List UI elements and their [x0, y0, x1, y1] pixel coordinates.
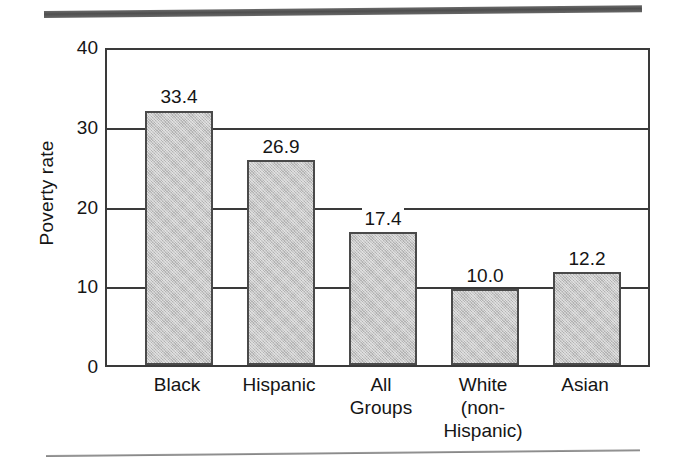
x-label-black: Black	[127, 373, 227, 396]
bar-value-label: 12.2	[566, 248, 609, 269]
x-label-white-non-hispanic: White (non- Hispanic)	[433, 373, 533, 442]
x-label-line: Hispanic	[229, 373, 329, 396]
bar-black	[145, 111, 213, 365]
x-label-line: White	[433, 373, 533, 396]
y-tick-label: 0	[46, 357, 98, 377]
bar-value-label: 17.4	[362, 208, 405, 229]
x-label-hispanic: Hispanic	[229, 373, 329, 396]
bar-value-asian: 12.2	[543, 249, 631, 269]
bar-value-all-groups: 17.4	[339, 209, 427, 229]
poverty-rate-bar-chart-figure: Poverty rate 40 30 20 10 0 33.4 26.9 17.…	[0, 0, 686, 475]
y-tick-label: 40	[46, 38, 98, 58]
y-axis-tick-labels: 40 30 20 10 0	[46, 38, 98, 378]
x-label-all-groups: All Groups	[331, 373, 431, 419]
x-label-line: Hispanic)	[433, 419, 533, 442]
bar-value-black: 33.4	[135, 87, 223, 107]
plot-area: 33.4 26.9 17.4 10.0 12.2	[105, 48, 650, 367]
bar-asian	[553, 272, 621, 365]
bar-white-non-hispanic	[451, 289, 519, 365]
x-label-line: Groups	[331, 396, 431, 419]
bar-series: 33.4 26.9 17.4 10.0 12.2	[107, 50, 648, 365]
bar-all-groups	[349, 232, 417, 365]
x-label-line: (non-	[433, 396, 533, 419]
x-label-asian: Asian	[535, 373, 635, 396]
bar-value-label: 10.0	[464, 265, 507, 286]
x-label-line: Black	[127, 373, 227, 396]
y-tick-label: 30	[46, 118, 98, 138]
y-tick-label: 20	[46, 198, 98, 218]
page-rule-top	[44, 5, 642, 18]
bar-value-hispanic: 26.9	[237, 137, 325, 157]
bar-value-label: 33.4	[158, 86, 201, 107]
x-label-line: All	[331, 373, 431, 396]
x-axis-category-labels: Black Hispanic All Groups White (non- Hi…	[105, 373, 650, 469]
bar-value-white-non-hispanic: 10.0	[441, 266, 529, 286]
y-tick-label: 10	[46, 277, 98, 297]
bar-value-label: 26.9	[260, 136, 303, 157]
x-label-line: Asian	[535, 373, 635, 396]
bar-hispanic	[247, 160, 315, 365]
